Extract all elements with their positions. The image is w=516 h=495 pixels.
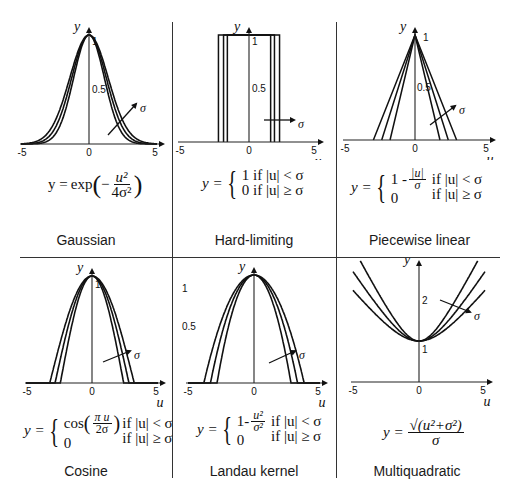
panel-multiquadratic: yu-50512σ y = √(u²+σ²)σ Multiquadratic <box>337 258 516 495</box>
y-tick-label: 2 <box>422 295 428 306</box>
y-tick-label: 1 <box>182 283 188 294</box>
panel-gaussian: yu-5050.51σ y = exp ( − u²4σ² ) Gaussian <box>0 0 172 257</box>
multiquadratic-plot: yu-50512σ <box>337 258 516 408</box>
x-tick-label: 0 <box>86 147 92 158</box>
x-tick-label: 0 <box>251 386 257 397</box>
x-axis-arrow-icon <box>318 139 324 145</box>
cosine-equation: y = { cos(π u2σ) 0 if |u| < σ if |u| ≥ σ <box>24 410 173 451</box>
panel-cosine: yu-5051σ y = { cos(π u2σ) 0 if |u| < σ i… <box>0 258 172 495</box>
cosine-plot: yu-5051σ <box>0 258 172 408</box>
kernel-functions-figure: yu-5050.51σ y = exp ( − u²4σ² ) Gaussian… <box>0 0 516 495</box>
x-tick-label: 0 <box>89 386 95 397</box>
y-axis-label: y <box>232 19 241 34</box>
caption-gaussian: Gaussian <box>0 232 172 248</box>
caption-cosine: Cosine <box>0 463 172 479</box>
gaussian-plot: yu-5050.51σ <box>0 0 172 160</box>
x-axis-arrow-icon <box>490 137 496 143</box>
panel-landau-kernel: yu-50510.5σ y = { 1-u²σ² 0 if |u| < σ if… <box>172 258 336 495</box>
x-tick-label: 5 <box>153 386 159 397</box>
x-tick-label: 5 <box>315 386 321 397</box>
sigma-label: σ <box>298 117 305 131</box>
y-tick-label: 0.5 <box>182 321 196 332</box>
caption-multiquadratic: Multiquadratic <box>337 463 497 479</box>
y-tick-label: 1 <box>95 279 101 290</box>
piecewise-linear-plot: yu-5050.51σ <box>337 0 516 160</box>
hard-limiting-equation: y = { 1 if |u| < σ 0 if |u| ≥ σ <box>202 168 304 198</box>
x-tick-label: 0 <box>412 143 418 154</box>
x-axis-arrow-icon <box>487 379 493 385</box>
sigma-label: σ <box>134 348 141 362</box>
y-axis-arrow-icon <box>412 27 418 33</box>
gaussian-equation: y = exp ( − u²4σ² ) <box>48 170 142 199</box>
sigma-label: σ <box>474 309 481 323</box>
x-tick-label: -5 <box>184 386 193 397</box>
x-tick-label: -5 <box>341 143 350 154</box>
y-tick-label: 0.5 <box>92 84 106 95</box>
landau-kernel-plot: yu-50510.5σ <box>172 258 336 408</box>
x-tick-label: 5 <box>480 385 486 396</box>
x-tick-label: 5 <box>152 147 158 158</box>
y-axis-label: y <box>75 260 84 275</box>
x-tick-label: -5 <box>18 147 27 158</box>
y-axis-arrow-icon <box>246 27 252 33</box>
y-axis-label: y <box>237 259 246 274</box>
y-tick-label: 1 <box>92 36 98 47</box>
sigma-arrow <box>103 351 130 362</box>
x-tick-label: 0 <box>416 385 422 396</box>
piecewise-linear-equation: y = { 1 -|u|σ 0 if |u| < σ if |u| ≥ σ <box>351 168 482 206</box>
y-axis-arrow-icon <box>86 27 92 33</box>
sigma-arrow <box>269 351 295 363</box>
sigma-label: σ <box>299 348 306 362</box>
sigma-label: σ <box>140 101 147 115</box>
x-axis-arrow-icon <box>160 380 166 386</box>
y-tick-label: 1 <box>423 32 429 43</box>
y-tick-label: 0.5 <box>252 83 266 94</box>
y-axis-arrow-icon <box>251 267 257 273</box>
multiquadratic-equation: y = √(u²+σ²)σ <box>383 418 466 447</box>
y-axis-label: y <box>398 19 407 34</box>
y-axis-arrow-icon <box>89 268 95 274</box>
landau-kernel-equation: y = { 1-u²σ² 0 if |u| < σ if |u| ≥ σ <box>197 410 321 448</box>
x-tick-label: 5 <box>483 143 489 154</box>
y-axis-label: y <box>72 19 81 34</box>
x-tick-label: 0 <box>246 145 252 156</box>
x-tick-label: -5 <box>349 385 358 396</box>
x-tick-label: -5 <box>23 386 32 397</box>
y-axis-label: y <box>402 258 411 267</box>
caption-landau-kernel: Landau kernel <box>172 463 336 479</box>
panel-hard-limiting: yu-5050.51σ y = { 1 if |u| < σ 0 if |u| … <box>172 0 336 257</box>
x-axis-label: u <box>484 394 491 408</box>
y-tick-label: 0.5 <box>417 82 431 93</box>
hard-limiting-plot: yu-5050.51σ <box>172 0 336 160</box>
x-axis-arrow-icon <box>159 141 165 147</box>
caption-piecewise-linear: Piecewise linear <box>337 232 502 248</box>
y-tick-label: 1 <box>422 344 428 355</box>
sigma-label: σ <box>459 103 466 117</box>
x-tick-label: 5 <box>311 145 317 156</box>
y-tick-label: 1 <box>252 36 258 47</box>
sigma-arrow-icon <box>450 105 457 111</box>
y-axis-arrow-icon <box>416 260 422 266</box>
x-tick-label: -5 <box>176 145 185 156</box>
caption-hard-limiting: Hard-limiting <box>172 232 336 248</box>
sigma-arrow-icon <box>290 117 296 123</box>
x-axis-arrow-icon <box>322 380 328 386</box>
panel-piecewise-linear: yu-5050.51σ y = { 1 -|u|σ 0 if |u| < σ i… <box>337 0 516 257</box>
